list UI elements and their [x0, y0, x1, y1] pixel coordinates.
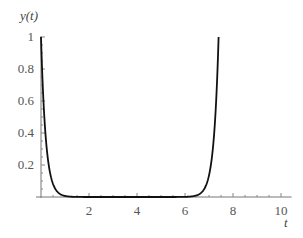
tick-labels: 2468100.20.40.60.81	[18, 29, 288, 218]
y-tick-label: 0.2	[18, 157, 34, 172]
y-axis-title: y(t)	[18, 8, 38, 23]
x-axis-title: t	[284, 215, 288, 230]
y-tick-label: 0.4	[18, 125, 35, 140]
axes	[36, 36, 292, 198]
y-tick-label: 0.8	[18, 61, 34, 76]
x-tick-label: 4	[134, 203, 141, 218]
x-tick-label: 6	[182, 203, 189, 218]
y-tick-label: 1	[28, 29, 35, 44]
ticks	[41, 37, 281, 197]
y-tick-label: 0.6	[18, 93, 35, 108]
chart: 2468100.20.40.60.81 y(t) t	[0, 0, 303, 238]
data-curve	[41, 37, 219, 197]
x-tick-label: 2	[86, 203, 93, 218]
x-tick-label: 8	[230, 203, 237, 218]
